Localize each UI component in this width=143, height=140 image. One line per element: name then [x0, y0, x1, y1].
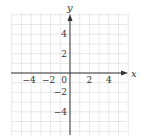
y-tick-label: 4	[61, 29, 67, 39]
x-tick-label: −4	[23, 75, 37, 85]
x-tick-label: 2	[87, 75, 93, 85]
y-tick-label: 2	[61, 49, 67, 59]
x-tick-label: 4	[106, 75, 112, 85]
y-tick-label: −2	[54, 87, 67, 97]
coordinate-plane: x y −4−2024 42−2−4	[0, 0, 143, 140]
x-tick-label: 0	[61, 75, 67, 85]
x-axis-arrow-icon	[121, 71, 128, 76]
x-tick-labels: −4−2024	[23, 75, 112, 85]
x-tick-label: −2	[42, 75, 55, 85]
y-tick-label: −4	[54, 107, 68, 117]
y-axis-label: y	[66, 2, 73, 13]
x-axis-label: x	[131, 68, 137, 79]
